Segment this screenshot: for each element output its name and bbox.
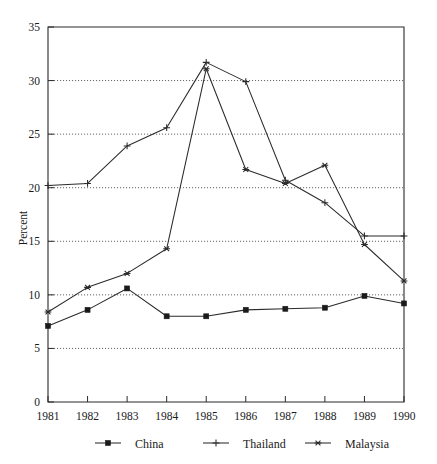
marker-china xyxy=(125,286,130,291)
y-tick-label: 20 xyxy=(29,182,41,194)
marker-china xyxy=(362,293,367,298)
series-line-malaysia xyxy=(48,69,404,312)
marker-china xyxy=(322,305,327,310)
asterisk-marker xyxy=(315,441,322,446)
y-tick-label: 10 xyxy=(29,289,41,301)
y-axis-title: Percent xyxy=(17,210,29,245)
x-tick-label: 1989 xyxy=(353,410,376,422)
series-malaysia xyxy=(45,66,408,314)
marker-malaysia xyxy=(361,242,368,247)
x-tick-label: 1983 xyxy=(116,410,139,422)
series-line-thailand xyxy=(48,62,404,236)
tickmarks-group xyxy=(48,27,404,402)
marker-china xyxy=(85,307,90,312)
marker-china xyxy=(46,323,51,328)
x-tick-label: 1984 xyxy=(155,410,178,422)
axis-frame xyxy=(48,27,404,402)
marker-thailand xyxy=(242,78,249,85)
legend-item-malaysia[interactable]: Malaysia xyxy=(305,437,390,451)
chart-figure: 05101520253035 1981198219831984198519861… xyxy=(0,0,437,464)
marker-thailand xyxy=(203,59,210,66)
plus-marker xyxy=(213,440,220,447)
marker-china xyxy=(204,314,209,319)
gridlines-group xyxy=(48,81,404,349)
x-tick-labels-group: 1981198219831984198519861987198819891990 xyxy=(37,410,416,422)
x-tick-label: 1982 xyxy=(76,410,99,422)
x-tick-label: 1987 xyxy=(274,410,297,422)
marker-china xyxy=(164,314,169,319)
y-tick-labels-group: 05101520253035 xyxy=(29,21,41,408)
legend-item-thailand[interactable]: Thailand xyxy=(203,437,286,451)
legend-label: Malaysia xyxy=(345,437,390,451)
x-tick-label: 1981 xyxy=(37,410,60,422)
y-tick-label: 5 xyxy=(34,342,40,354)
marker-malaysia xyxy=(321,163,328,168)
plot-frame xyxy=(48,27,404,402)
x-tick-label: 1988 xyxy=(313,410,336,422)
legend-item-china[interactable]: China xyxy=(95,437,164,451)
marker-malaysia xyxy=(242,167,249,172)
line-chart: 05101520253035 1981198219831984198519861… xyxy=(0,0,437,464)
marker-malaysia xyxy=(84,285,91,290)
legend-label: China xyxy=(135,437,164,451)
y-tick-label: 0 xyxy=(34,396,40,408)
x-tick-label: 1990 xyxy=(393,410,416,422)
x-tick-label: 1985 xyxy=(195,410,218,422)
y-tick-label: 25 xyxy=(29,128,41,140)
legend-label: Thailand xyxy=(243,437,286,451)
marker-malaysia xyxy=(124,271,131,276)
marker-thailand xyxy=(401,233,408,240)
series-thailand xyxy=(45,59,408,239)
data-series-group xyxy=(45,59,408,328)
y-tick-label: 15 xyxy=(29,235,41,247)
marker-china xyxy=(243,307,248,312)
square-marker xyxy=(106,441,111,446)
series-line-china xyxy=(48,288,404,326)
y-tick-label: 35 xyxy=(29,21,41,33)
chart-legend: ChinaThailandMalaysia xyxy=(95,437,390,451)
marker-china xyxy=(402,301,407,306)
x-tick-label: 1986 xyxy=(234,410,257,422)
marker-china xyxy=(283,306,288,311)
y-tick-label: 30 xyxy=(29,75,41,87)
series-china xyxy=(46,286,407,329)
marker-thailand xyxy=(163,124,170,131)
